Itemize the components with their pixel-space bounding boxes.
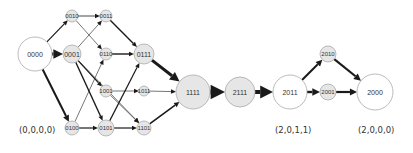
node-0111: 0111	[134, 44, 154, 64]
arrowhead-icon	[260, 86, 273, 99]
edge-0111-1111	[152, 60, 180, 81]
node-0010: 0010	[65, 10, 79, 22]
node-1011: 1011	[138, 86, 152, 96]
edge-0000-0010	[47, 20, 68, 42]
node-label: 0100	[65, 125, 79, 131]
node-label: 0111	[137, 51, 152, 58]
node-0110: 0110	[100, 48, 114, 60]
node-1001: 1001	[99, 85, 113, 97]
node-label: 0110	[100, 51, 114, 57]
node-label: 0001	[64, 51, 80, 58]
caption-2011: (2,0,1,1)	[275, 125, 311, 135]
caption-0000: (0,0,0,0)	[19, 125, 55, 135]
node-label: 1101	[138, 125, 152, 131]
edge-line	[43, 69, 66, 116]
edge-1101-1111	[150, 102, 180, 124]
edge-0011-0111	[110, 20, 137, 47]
node-0101: 0101	[98, 120, 114, 136]
node-label: 1001	[99, 88, 113, 94]
edge-line	[302, 64, 318, 80]
edge-line	[152, 60, 172, 76]
node-label: 0101	[99, 125, 113, 131]
edge-0101-1101	[114, 126, 137, 130]
node-2011: 2011	[273, 75, 307, 109]
edge-0010-0011	[78, 14, 100, 18]
node-label: 2011	[282, 89, 297, 96]
edge-line	[78, 24, 99, 47]
edges-layer	[43, 14, 361, 130]
node-label: 0011	[100, 13, 114, 19]
edge-line	[75, 64, 101, 122]
edge-0110-0111	[112, 52, 134, 56]
node-2010: 2010	[320, 46, 336, 62]
node-0000: 0000	[18, 37, 52, 71]
edge-0001-0011	[78, 20, 102, 47]
edge-line	[110, 67, 137, 121]
arrowhead-icon	[93, 126, 98, 130]
edge-line	[47, 24, 64, 42]
edge-line	[76, 20, 99, 45]
node-2001: 2001	[320, 84, 336, 100]
edge-2011-2001	[307, 88, 320, 96]
edge-line	[150, 105, 176, 124]
node-2111: 2111	[225, 77, 255, 107]
node-1101: 1101	[137, 121, 151, 135]
node-label: 0010	[65, 13, 79, 19]
node-label: 1111	[186, 89, 200, 96]
arrowhead-icon	[312, 88, 320, 96]
node-label: 2001	[321, 89, 335, 95]
node-label: 1011	[138, 88, 152, 94]
edge-2111-2011	[255, 86, 273, 99]
state-transition-diagram: 0000001000110001011001111001101101000101…	[0, 0, 413, 153]
arrowhead-icon	[53, 49, 63, 59]
node-2000: 2000	[357, 74, 393, 110]
node-label: 0000	[27, 51, 43, 58]
edge-1011-1111	[149, 89, 176, 93]
node-1111: 1111	[176, 75, 210, 109]
edge-line	[334, 59, 355, 76]
edge-1111-2111	[210, 85, 225, 99]
arrowhead-icon	[129, 52, 134, 56]
node-0001: 0001	[63, 45, 81, 63]
edge-0000-0001	[52, 49, 63, 59]
edge-2010-2000	[334, 59, 361, 81]
edge-2011-2010	[302, 60, 322, 80]
edge-line	[78, 61, 98, 83]
edge-line	[110, 20, 133, 43]
arrowhead-icon	[211, 85, 225, 99]
node-label: 2010	[321, 51, 335, 57]
node-label: 2111	[233, 89, 248, 96]
edge-0100-0101	[79, 126, 98, 130]
arrowhead-icon	[350, 88, 357, 95]
caption-2000: (2,0,0,0)	[358, 125, 394, 135]
edge-1001-1101	[110, 95, 139, 123]
edge-line	[110, 95, 135, 119]
edge-0000-0100	[43, 69, 69, 122]
arrowhead-icon	[171, 89, 176, 93]
node-0100: 0100	[65, 121, 79, 135]
nodes-layer: 0000001000110001011001111001101101000101…	[18, 10, 393, 136]
node-label: 2000	[367, 89, 383, 96]
arrowhead-icon	[132, 126, 137, 130]
edge-2001-2000	[336, 88, 357, 95]
